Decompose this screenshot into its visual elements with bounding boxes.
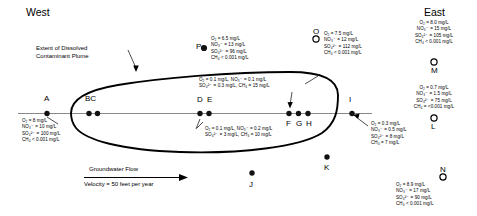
chem-block-plume-upper: O₂ = 0.1 mg/L, NO₃⁻ = 0.1 mg/L SO₄²⁻ = 0… <box>199 77 270 90</box>
plume-annotation-line2: Contaminant Plume <box>36 52 89 60</box>
chem-plume-upper-line2: SO₄²⁻ = 0.3 mg/L, CH₄ = 15 mg/L <box>199 83 270 89</box>
chem-plume-lower-line2: SO₄²⁻ = 3 mg/L, CH₄ = 10 mg/L <box>205 132 272 138</box>
well-marker-p[interactable] <box>201 45 207 51</box>
well-label-bc: BC <box>85 94 96 103</box>
chem-block-a: O₂ = 8 mg/L NO₃⁻ = 10 mg/L SO₄²⁻ = 100 m… <box>22 118 60 143</box>
plume-annotation-arrowhead <box>133 65 139 72</box>
chem-block-l: O₂ = 0.7 mg/L NO₃⁻ = 1.5 mg/L SO₄²⁻ = 75… <box>408 85 460 110</box>
well-label-i: I <box>349 95 351 104</box>
well-label-h: H <box>306 119 312 128</box>
chem-i-no3: NO₃⁻ = 0.5 mg/L <box>371 127 407 133</box>
compass-east-label: East <box>424 6 445 18</box>
chem-i-ch4: CH₄ = 7 mg/L <box>371 140 407 146</box>
well-label-p: P <box>196 42 201 51</box>
flow-arrow-head <box>179 174 188 181</box>
plume-annotation-leader <box>128 50 136 68</box>
groundwater-flow-velocity: Velocity = 50 feet per year <box>84 181 154 187</box>
leader-plume-upper <box>305 76 318 84</box>
well-marker-j[interactable] <box>249 170 254 175</box>
well-marker-k[interactable] <box>324 154 329 159</box>
compass-west-label: West <box>26 6 50 18</box>
well-marker-n[interactable] <box>440 174 446 180</box>
chem-block-m: O₂ = 8.0 mg/L NO₃⁻ = 15 mg/L SO₄²⁻ = 105… <box>410 20 458 45</box>
well-marker-b[interactable] <box>86 111 91 116</box>
chem-l-ch4: CH₄ = <0.001 mg/L <box>408 104 460 110</box>
plume-annotation: Extent of Dissolved Contaminant Plume <box>36 44 89 60</box>
chem-n-ch4: CH₄ < 0.001 mg/L <box>396 201 434 207</box>
well-marker-f[interactable] <box>286 111 291 116</box>
well-label-m: M <box>431 66 438 75</box>
chem-o-upper-ch4: CH₄ < 0.001 mg/L <box>324 50 362 56</box>
chem-block-o-upper: O₂ = 7.5 mg/L NO₃⁻ = 12 mg/L SO₄²⁻ = 112… <box>324 31 362 56</box>
groundwater-flow-title: Groundwater Flow <box>89 166 138 172</box>
plume-annotation-line1: Extent of Dissolved <box>36 44 89 52</box>
well-label-k: K <box>324 163 329 172</box>
well-marker-o-upper[interactable] <box>313 36 319 42</box>
well-marker-c[interactable] <box>95 111 100 116</box>
well-marker-m[interactable] <box>431 59 437 65</box>
well-marker-l[interactable] <box>431 115 437 121</box>
well-marker-a[interactable] <box>44 111 49 116</box>
well-label-n: N <box>440 165 446 174</box>
chem-m-no3: NO₃⁻ = 15 mg/L <box>410 26 458 32</box>
well-marker-h[interactable] <box>305 111 310 116</box>
well-label-f: F <box>286 119 291 128</box>
leader-f-arrowhead <box>288 102 293 109</box>
chem-n-no3: NO₃⁻ = 17 mg/L <box>396 188 434 194</box>
well-label-d: D <box>197 95 203 104</box>
well-marker-e[interactable] <box>206 111 211 116</box>
chem-block-plume-lower: O₂ = 0.1 mg/L, NO₃⁻ = 0.2 mg/L SO₄²⁻ = 3… <box>205 126 272 139</box>
chem-o-upper-no3: NO₃⁻ = 12 mg/L <box>324 37 362 43</box>
chem-block-i: O₂ = 0.3 mg/L NO₃⁻ = 0.5 mg/L SO₄²⁻ = 8 … <box>371 121 407 146</box>
well-marker-g[interactable] <box>296 111 301 116</box>
well-label-j: J <box>249 180 253 189</box>
leader-plume-lower-2 <box>196 119 200 129</box>
well-label-o-upper: O <box>313 27 319 36</box>
chem-p-ch4: CH₄ < 0.001 mg/L <box>211 55 249 61</box>
well-label-a: A <box>44 94 49 103</box>
chem-block-n: O₂ = 8.9 mg/L NO₃⁻ = 17 mg/L SO₄²⁻ = 90 … <box>396 182 434 207</box>
well-label-g: G <box>296 119 302 128</box>
chem-m-ch4: CH₄ < 0.001 mg/L <box>410 39 458 45</box>
chem-a-ch4: CH₄ < 0.001 mg/L <box>22 137 60 143</box>
well-marker-d[interactable] <box>197 111 202 116</box>
chem-p-no3: NO₃⁻ = 13 mg/L <box>211 42 249 48</box>
chem-a-no3: NO₃⁻ = 10 mg/L <box>22 124 60 130</box>
well-label-e: E <box>207 95 212 104</box>
well-label-l: L <box>431 122 435 131</box>
chem-block-p: O₂ = 6.5 mg/L NO₃⁻ = 13 mg/L SO₄²⁻ = 96 … <box>211 36 249 61</box>
